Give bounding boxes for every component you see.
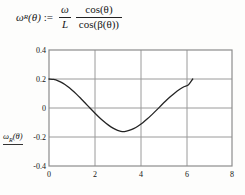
y-tick-label-3: -0.2 — [22, 133, 46, 142]
y-tick-label-1: 0.2 — [26, 75, 46, 84]
y-axis-title-argument: (θ) — [13, 131, 23, 141]
fraction-denominator-cos-beta-theta: cos(β(θ)) — [76, 17, 122, 31]
x-tick-label-0: 0 — [39, 170, 59, 179]
plot-svg — [0, 44, 245, 195]
assignment-operator: := — [44, 11, 53, 23]
formula-definition: ωR(θ) := ω L cos(θ) cos(β(θ)) — [16, 4, 122, 31]
fraction-numerator-cos-theta: cos(θ) — [82, 4, 115, 17]
fraction-cos-ratio: cos(θ) cos(β(θ)) — [76, 4, 122, 31]
mathcad-plot-figure: ωR(θ) := ω L cos(θ) cos(β(θ)) — [0, 0, 245, 195]
x-tick-label-3: 6 — [177, 170, 197, 179]
y-axis-title: ωR(θ) — [3, 132, 23, 145]
formula-lhs-symbol: ω — [16, 11, 24, 23]
plot-area: 0.4 0.2 0 -0.2 -0.4 0 2 4 6 8 ωR(θ) θ — [0, 44, 245, 195]
x-tick-label-4: 8 — [222, 170, 242, 179]
x-tick-label-2: 4 — [131, 170, 151, 179]
fraction-numerator-omega: ω — [58, 4, 72, 17]
y-tick-label-0: 0.4 — [26, 46, 46, 55]
fraction-omega-over-L: ω L — [58, 4, 72, 31]
x-tick-label-1: 2 — [85, 170, 105, 179]
y-tick-label-2: 0 — [26, 104, 46, 113]
fraction-denominator-L: L — [59, 17, 71, 31]
formula-lhs-argument: (θ) — [28, 11, 41, 23]
